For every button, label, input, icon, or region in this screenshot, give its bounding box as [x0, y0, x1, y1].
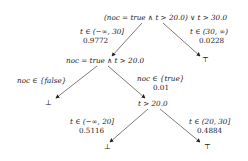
edge-n2-left	[110, 109, 148, 142]
leaf-root-right-top: ⊤	[202, 56, 209, 64]
edge-label-n2-left-condition: t ∈ (−∞, 20]	[70, 118, 114, 126]
leaf-n1-left-bottom: ⊥	[45, 99, 52, 107]
edge-label-root-left-prob: 0.9772	[83, 37, 108, 45]
edge-label-n1-left-condition: noc ∈ {false}	[17, 77, 66, 85]
node-n2: t > 20.0	[138, 100, 167, 108]
node-n1: noc = true ∧ t > 20.0	[66, 57, 144, 65]
leaf-n2-left-bottom: ⊥	[104, 143, 111, 151]
edge-label-n2-right-prob: 0.4884	[197, 127, 222, 135]
leaf-n2-right-top: ⊤	[204, 143, 211, 151]
edge-label-root-right-prob: 0.0228	[199, 37, 224, 45]
edge-label-n2-left-prob: 0.5116	[79, 127, 104, 135]
edge-label-n2-right-condition: t ∈ (20, 30]	[189, 118, 230, 126]
edge-label-n1-right-condition: noc ∈ {true}	[137, 75, 184, 83]
node-root: (noc = true ∧ t > 20.0) ∨ t > 30.0	[104, 14, 227, 22]
edge-label-root-left-condition: t ∈ (−∞, 30]	[80, 28, 124, 36]
edge-label-n1-right-prob: 0.01	[153, 84, 169, 92]
edge-label-root-right-condition: t ∈ (30, ∞)	[190, 28, 228, 36]
